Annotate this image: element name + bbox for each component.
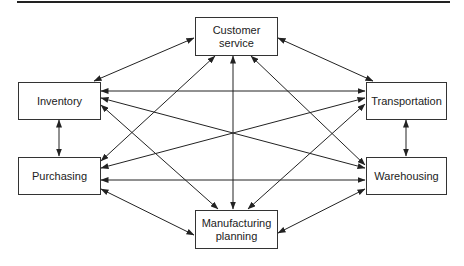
node-label: Warehousing bbox=[374, 170, 438, 183]
node-label: Inventory bbox=[37, 95, 82, 108]
node-warehousing: Warehousing bbox=[366, 157, 447, 195]
node-label: Manufacturing planning bbox=[202, 217, 272, 243]
node-purchasing: Purchasing bbox=[18, 157, 101, 195]
logistics-interaction-diagram: Customer service Inventory Transportatio… bbox=[0, 0, 464, 266]
node-customer-service: Customer service bbox=[195, 17, 278, 56]
node-transportation: Transportation bbox=[366, 82, 447, 120]
node-label: Purchasing bbox=[32, 170, 87, 183]
node-label: Transportation bbox=[371, 95, 442, 108]
node-inventory: Inventory bbox=[18, 82, 101, 120]
node-label: Customer service bbox=[213, 24, 261, 50]
node-manufacturing-planning: Manufacturing planning bbox=[195, 210, 278, 249]
